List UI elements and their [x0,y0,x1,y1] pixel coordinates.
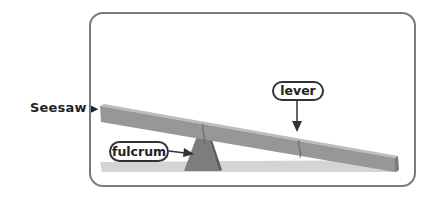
lever-pointer-arrow-icon [292,101,302,132]
lever-label: lever [272,81,324,101]
seesaw-illustration [0,0,438,205]
fulcrum-label: fulcrum [109,141,169,162]
